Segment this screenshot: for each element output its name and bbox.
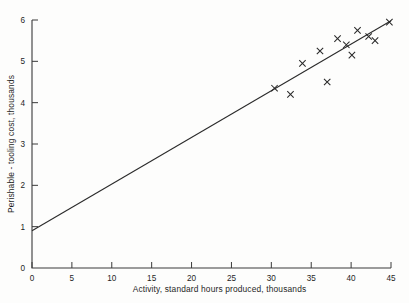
data-point-marker (334, 35, 340, 41)
y-tick-label: 4 (20, 99, 25, 108)
data-point-marker (317, 48, 323, 54)
data-point-marker (386, 19, 392, 25)
y-tick-label: 1 (20, 223, 25, 232)
y-tick-label: 0 (20, 264, 25, 273)
chart-axes (32, 20, 391, 268)
data-point-marker (287, 91, 293, 97)
x-tick-label: 5 (70, 274, 75, 283)
scatter-chart: 0510152025303540450123456Activity, stand… (0, 0, 409, 303)
x-tick-label: 40 (347, 274, 357, 283)
data-point-marker (354, 27, 360, 33)
plot-area: 0510152025303540450123456Activity, stand… (0, 0, 409, 303)
x-tick-label: 15 (147, 274, 157, 283)
data-point-marker (349, 52, 355, 58)
x-axis-title: Activity, standard hours produced, thous… (133, 284, 307, 294)
x-tick-label: 45 (386, 274, 396, 283)
data-point-marker (299, 60, 305, 66)
y-axis-title: Perishable - tooling cost, thousands (6, 75, 16, 213)
y-tick-label: 3 (20, 140, 25, 149)
x-tick-label: 30 (267, 274, 277, 283)
data-point-marker (372, 37, 378, 43)
y-tick-label: 6 (20, 16, 25, 25)
x-tick-label: 25 (227, 274, 237, 283)
x-tick-label: 10 (107, 274, 117, 283)
data-point-marker (324, 79, 330, 85)
x-tick-label: 35 (307, 274, 317, 283)
regression-line (32, 21, 391, 231)
x-tick-label: 0 (30, 274, 35, 283)
x-tick-label: 20 (187, 274, 197, 283)
y-tick-label: 5 (20, 57, 25, 66)
y-tick-label: 2 (20, 181, 25, 190)
